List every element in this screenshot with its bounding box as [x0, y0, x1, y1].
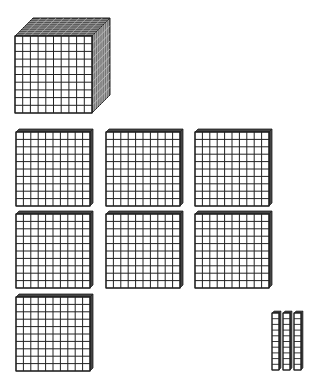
thousand-cube [15, 18, 110, 113]
ten-rods-group [272, 311, 303, 370]
hundred-flat [16, 294, 93, 371]
hundred-flats-group [16, 129, 272, 371]
base-ten-blocks-diagram [0, 0, 320, 386]
hundred-flat [106, 129, 183, 206]
hundred-flat [16, 129, 93, 206]
ten-rod [272, 311, 281, 370]
hundred-flat [16, 211, 93, 288]
ten-rod [294, 311, 303, 370]
hundred-flat [195, 211, 272, 288]
ten-rod [283, 311, 292, 370]
hundred-flat [195, 129, 272, 206]
hundred-flat [106, 211, 183, 288]
